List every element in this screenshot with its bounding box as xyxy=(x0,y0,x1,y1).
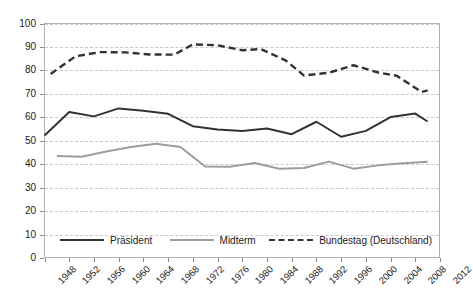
x-tick-mark-1964 xyxy=(143,258,144,262)
x-tick-label-1960: 1960 xyxy=(130,264,152,286)
x-tick-mark-1996 xyxy=(341,258,342,262)
x-tick-mark-1952 xyxy=(69,258,70,262)
y-tick-mark-100 xyxy=(40,24,44,25)
y-tick-label-80: 80 xyxy=(10,65,36,75)
x-tick-mark-1984 xyxy=(267,258,268,262)
y-tick-mark-0 xyxy=(40,258,44,259)
y-tick-mark-60 xyxy=(40,117,44,118)
x-tick-label-1952: 1952 xyxy=(80,264,102,286)
gridline-y-90 xyxy=(45,47,439,48)
legend-item-midterm: Midterm xyxy=(170,235,256,246)
y-tick-mark-80 xyxy=(40,70,44,71)
x-tick-label-1992: 1992 xyxy=(328,264,350,286)
x-tick-label-2012: 2012 xyxy=(451,264,473,286)
x-tick-label-1968: 1968 xyxy=(179,264,201,286)
x-tick-mark-1980 xyxy=(242,258,243,262)
y-tick-label-40: 40 xyxy=(10,159,36,169)
y-tick-label-20: 20 xyxy=(10,206,36,216)
legend-label-bundestag: Bundestag (Deutschland) xyxy=(319,235,432,246)
y-tick-label-60: 60 xyxy=(10,112,36,122)
y-tick-label-100: 100 xyxy=(10,19,36,29)
y-tick-mark-20 xyxy=(40,211,44,212)
y-tick-mark-10 xyxy=(40,235,44,236)
x-tick-label-1976: 1976 xyxy=(229,264,251,286)
gridline-y-30 xyxy=(45,188,439,189)
legend-swatch-midterm xyxy=(170,235,214,245)
y-tick-mark-30 xyxy=(40,188,44,189)
x-tick-mark-1988 xyxy=(292,258,293,262)
x-tick-mark-1968 xyxy=(168,258,169,262)
x-tick-label-1972: 1972 xyxy=(204,264,226,286)
x-tick-mark-1976 xyxy=(218,258,219,262)
legend-item-prasident: Präsident xyxy=(60,235,152,246)
y-tick-mark-90 xyxy=(40,47,44,48)
legend-label-midterm: Midterm xyxy=(220,235,256,246)
gridline-y-70 xyxy=(45,94,439,95)
chart-legend: Präsident Midterm Bundestag (Deutschland… xyxy=(60,232,432,248)
y-tick-mark-70 xyxy=(40,94,44,95)
y-tick-label-0: 0 xyxy=(10,253,36,263)
x-tick-label-1956: 1956 xyxy=(105,264,127,286)
x-tick-label-1988: 1988 xyxy=(303,264,325,286)
x-tick-mark-1960 xyxy=(119,258,120,262)
y-tick-label-70: 70 xyxy=(10,89,36,99)
x-tick-mark-2004 xyxy=(391,258,392,262)
x-tick-label-1984: 1984 xyxy=(278,264,300,286)
gridline-y-40 xyxy=(45,164,439,165)
legend-item-bundestag: Bundestag (Deutschland) xyxy=(269,235,432,246)
gridline-y-100 xyxy=(45,24,439,25)
x-tick-mark-2000 xyxy=(366,258,367,262)
y-tick-label-30: 30 xyxy=(10,183,36,193)
x-tick-mark-1972 xyxy=(193,258,194,262)
legend-swatch-bundestag xyxy=(269,235,313,245)
y-tick-label-90: 90 xyxy=(10,42,36,52)
x-tick-label-1948: 1948 xyxy=(56,264,78,286)
x-tick-mark-2008 xyxy=(415,258,416,262)
y-tick-mark-40 xyxy=(40,164,44,165)
x-tick-label-2008: 2008 xyxy=(426,264,448,286)
y-tick-mark-50 xyxy=(40,141,44,142)
x-tick-label-1996: 1996 xyxy=(352,264,374,286)
x-tick-mark-2012 xyxy=(440,258,441,262)
x-tick-mark-1956 xyxy=(94,258,95,262)
legend-label-prasident: Präsident xyxy=(110,235,152,246)
x-tick-label-2004: 2004 xyxy=(402,264,424,286)
gridline-y-50 xyxy=(45,141,439,142)
x-tick-mark-1948 xyxy=(45,258,46,262)
gridline-y-60 xyxy=(45,117,439,118)
gridline-y-80 xyxy=(45,70,439,71)
y-tick-label-50: 50 xyxy=(10,136,36,146)
y-tick-label-10: 10 xyxy=(10,230,36,240)
x-tick-label-2000: 2000 xyxy=(377,264,399,286)
gridline-y-20 xyxy=(45,211,439,212)
x-tick-label-1964: 1964 xyxy=(155,264,177,286)
x-tick-label-1980: 1980 xyxy=(253,264,275,286)
legend-swatch-prasident xyxy=(60,235,104,245)
x-tick-mark-1992 xyxy=(316,258,317,262)
